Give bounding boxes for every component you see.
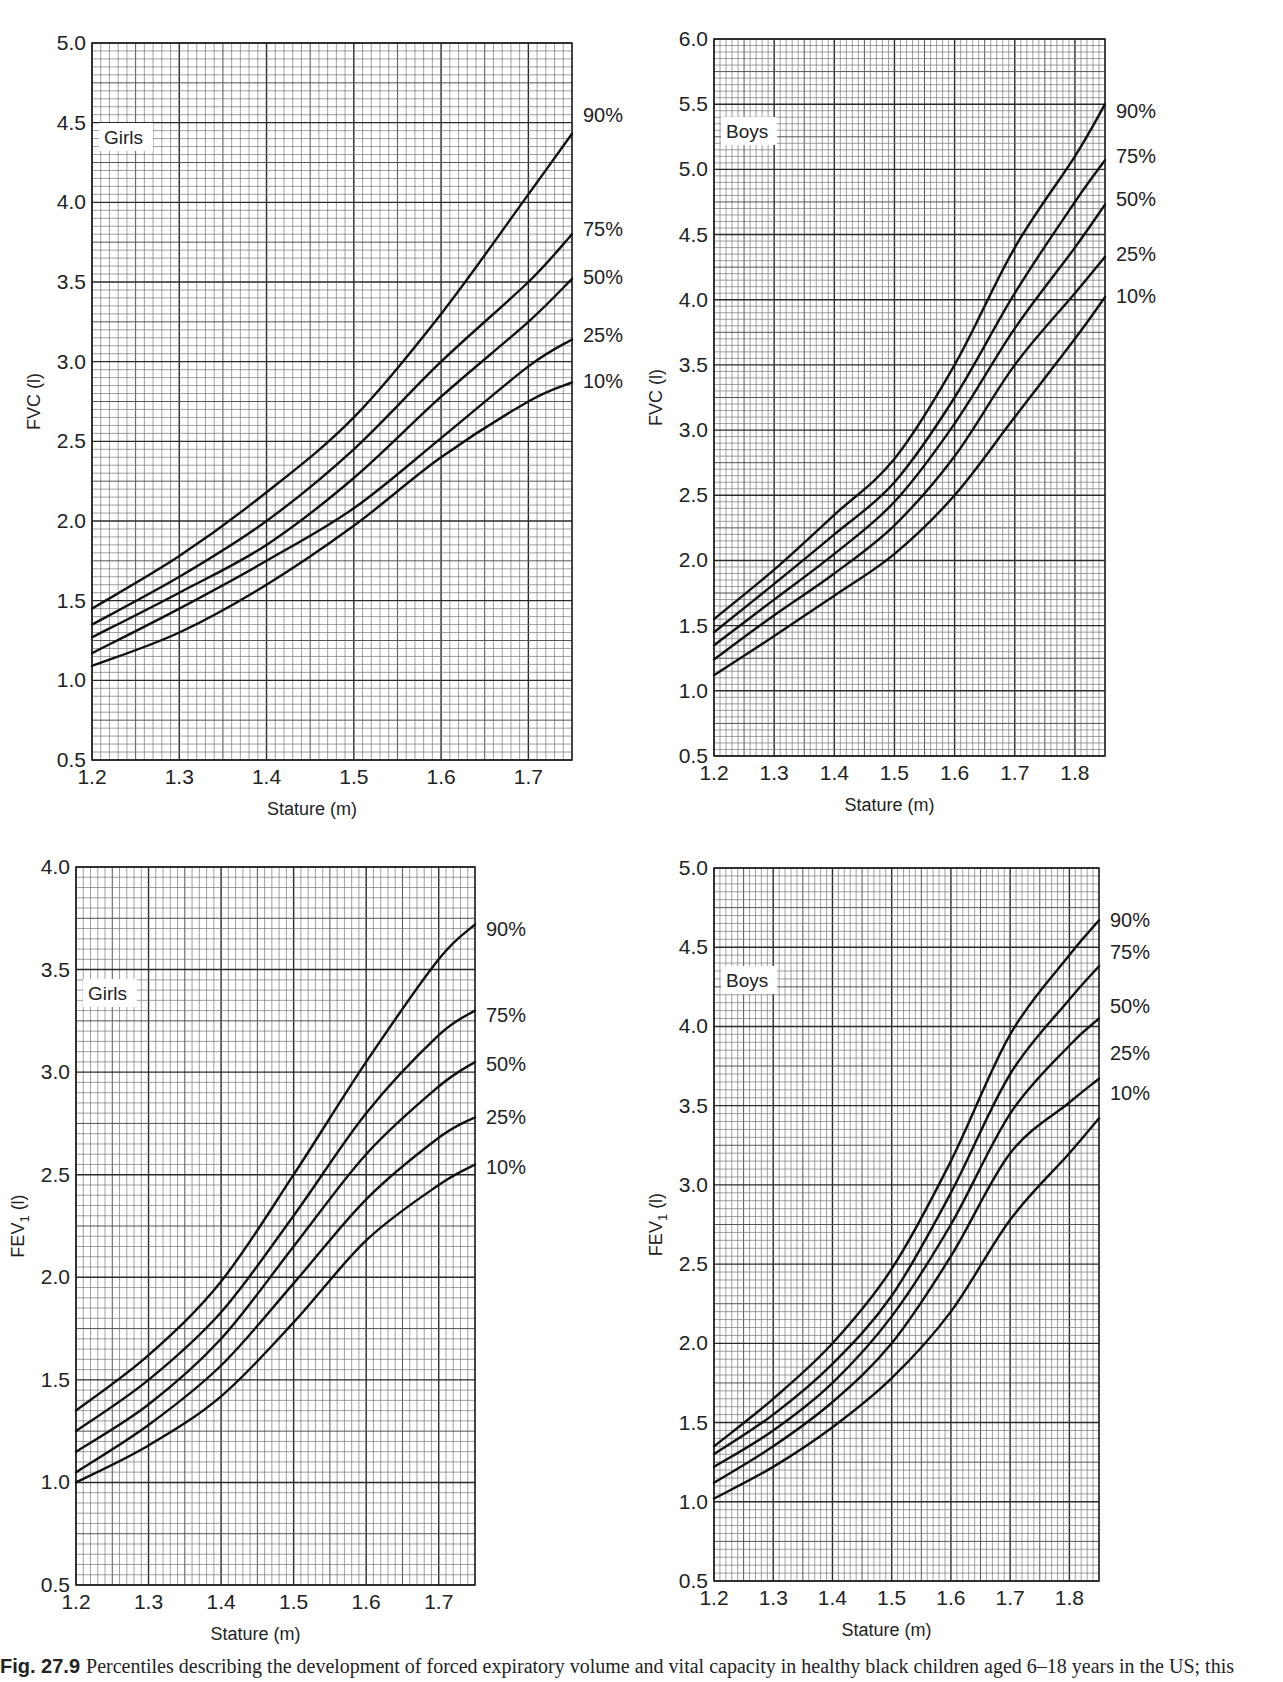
y-axis-ticks: 0.51.01.52.02.53.03.54.04.55.05.56.0	[679, 27, 708, 767]
curve-75pct	[714, 966, 1099, 1454]
percentile-label: 10%	[583, 370, 623, 392]
svg-text:4.0: 4.0	[679, 1014, 708, 1037]
percentile-label: 10%	[486, 1156, 526, 1178]
svg-text:1.8: 1.8	[1060, 761, 1089, 784]
svg-text:1.8: 1.8	[1055, 1586, 1084, 1609]
svg-text:5.5: 5.5	[679, 92, 708, 115]
percentile-label: 50%	[1116, 188, 1156, 210]
svg-text:1.6: 1.6	[352, 1590, 381, 1613]
svg-text:1.2: 1.2	[77, 765, 106, 788]
plot-frame	[714, 868, 1099, 1581]
curve-25pct	[76, 1117, 475, 1472]
svg-text:1.4: 1.4	[820, 761, 850, 784]
svg-text:0.5: 0.5	[679, 744, 708, 767]
svg-text:1.0: 1.0	[679, 679, 708, 702]
svg-text:Girls: Girls	[104, 127, 143, 148]
svg-text:1.2: 1.2	[61, 1590, 90, 1613]
svg-text:3.0: 3.0	[679, 1173, 708, 1196]
svg-text:0.5: 0.5	[41, 1573, 70, 1596]
svg-text:3.5: 3.5	[41, 958, 70, 981]
svg-text:1.5: 1.5	[877, 1586, 906, 1609]
percentile-label: 90%	[486, 918, 526, 940]
svg-text:1.0: 1.0	[41, 1470, 70, 1493]
percentile-label: 90%	[583, 104, 623, 126]
x-axis-label: Stature (m)	[210, 1624, 300, 1644]
svg-text:3.5: 3.5	[57, 270, 86, 293]
svg-text:1.5: 1.5	[279, 1590, 308, 1613]
svg-text:1.7: 1.7	[514, 765, 543, 788]
x-axis-ticks: 1.21.31.41.51.61.71.8	[699, 1586, 1084, 1609]
svg-text:Girls: Girls	[88, 983, 127, 1004]
svg-text:4.0: 4.0	[57, 190, 86, 213]
svg-text:1.5: 1.5	[41, 1368, 70, 1391]
curve-90pct	[714, 920, 1099, 1446]
svg-text:Boys: Boys	[726, 970, 768, 991]
x-axis-ticks: 1.21.31.41.51.61.7	[77, 765, 543, 788]
svg-text:5.0: 5.0	[679, 856, 708, 879]
curve-50pct	[92, 279, 572, 638]
svg-text:3.0: 3.0	[41, 1060, 70, 1083]
percentile-label: 25%	[1116, 243, 1156, 265]
figure-caption: Fig. 27.9Percentiles describing the deve…	[0, 1655, 1283, 1682]
panel-label: Girls	[83, 979, 137, 1007]
svg-text:1.4: 1.4	[818, 1586, 848, 1609]
svg-text:6.0: 6.0	[679, 27, 708, 50]
svg-text:Boys: Boys	[726, 121, 768, 142]
svg-text:1.0: 1.0	[679, 1490, 708, 1513]
curve-90pct	[76, 924, 475, 1410]
curve-25pct	[714, 257, 1105, 660]
svg-text:2.5: 2.5	[57, 429, 86, 452]
svg-text:3.0: 3.0	[57, 350, 86, 373]
y-axis-label: FVC (l)	[646, 369, 666, 426]
svg-text:1.7: 1.7	[424, 1590, 453, 1613]
percentile-label: 90%	[1116, 100, 1156, 122]
svg-text:1.5: 1.5	[339, 765, 368, 788]
percentile-label: 75%	[1116, 145, 1156, 167]
svg-text:2.5: 2.5	[41, 1163, 70, 1186]
svg-text:1.3: 1.3	[165, 765, 194, 788]
svg-text:2.0: 2.0	[679, 548, 708, 571]
svg-text:1.2: 1.2	[699, 1586, 728, 1609]
svg-text:1.6: 1.6	[426, 765, 455, 788]
svg-text:1.6: 1.6	[936, 1586, 965, 1609]
percentile-label: 50%	[486, 1053, 526, 1075]
svg-text:1.3: 1.3	[134, 1590, 163, 1613]
y-axis-label: FVC (l)	[24, 373, 44, 430]
svg-text:3.0: 3.0	[679, 418, 708, 441]
x-axis-label: Stature (m)	[841, 1620, 931, 1640]
x-axis-ticks: 1.21.31.41.51.61.7	[61, 1590, 453, 1613]
curve-25pct	[92, 339, 572, 653]
svg-text:1.7: 1.7	[996, 1586, 1025, 1609]
svg-text:3.5: 3.5	[679, 1094, 708, 1117]
svg-text:4.5: 4.5	[679, 223, 708, 246]
svg-text:2.0: 2.0	[57, 509, 86, 532]
svg-text:2.5: 2.5	[679, 483, 708, 506]
curve-10pct	[714, 297, 1105, 675]
percentile-label: 10%	[1110, 1082, 1150, 1104]
svg-text:1.3: 1.3	[759, 1586, 788, 1609]
curve-90pct	[714, 104, 1105, 619]
y-axis-ticks: 0.51.01.52.02.53.03.54.04.55.0	[679, 856, 708, 1592]
curve-50pct	[76, 1062, 475, 1452]
svg-text:2.0: 2.0	[679, 1331, 708, 1354]
x-axis-label: Stature (m)	[844, 795, 934, 815]
y-axis-label: FEV1 (l)	[646, 1193, 670, 1256]
panel-label: Boys	[721, 117, 777, 145]
svg-text:1.5: 1.5	[57, 589, 86, 612]
figure-caption-text: Percentiles describing the development o…	[86, 1655, 1234, 1677]
svg-text:1.3: 1.3	[760, 761, 789, 784]
svg-text:4.0: 4.0	[41, 855, 70, 878]
curve-75pct	[76, 1011, 475, 1432]
percentile-label: 50%	[583, 266, 623, 288]
svg-text:4.5: 4.5	[57, 111, 86, 134]
svg-text:1.0: 1.0	[57, 668, 86, 691]
percentile-curves	[714, 104, 1105, 675]
y-axis-label: FEV1 (l)	[8, 1194, 32, 1257]
grid	[714, 868, 1099, 1581]
percentile-label: 75%	[1110, 941, 1150, 963]
svg-text:1.2: 1.2	[699, 761, 728, 784]
plot-frame	[76, 867, 475, 1585]
curve-50pct	[714, 205, 1105, 646]
curve-50pct	[714, 1019, 1099, 1467]
svg-text:0.5: 0.5	[57, 748, 86, 771]
